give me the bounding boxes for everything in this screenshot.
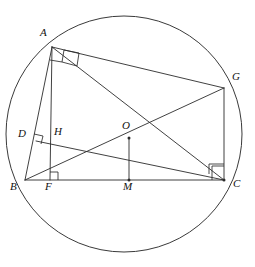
vertex-dot-O [128,137,131,140]
right-angle-at-A-outer [62,50,79,66]
segment-AF [50,47,52,180]
geometry-figure: A G D H O B F M C [0,0,255,267]
point-label-O: O [122,120,130,131]
point-label-M: M [123,181,132,192]
segment-DC [36,141,224,180]
vertex-dot-C [223,179,226,182]
geometry-canvas [0,0,255,267]
point-label-G: G [232,71,240,82]
point-label-D: D [18,128,26,139]
point-label-B: B [10,181,17,192]
right-angle-at-F [50,172,58,180]
point-label-C: C [233,178,240,189]
right-angle-at-C-inner [209,164,224,174]
point-label-F: F [45,181,52,192]
right-angle-at-D [34,134,43,144]
point-label-A: A [40,27,47,38]
point-label-H: H [54,126,62,137]
segment-AB [25,47,52,180]
segment-AC [52,47,224,180]
